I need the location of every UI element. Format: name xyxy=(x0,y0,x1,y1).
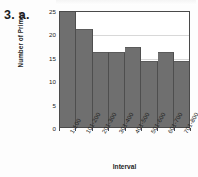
y-tick-label: 0 xyxy=(53,125,56,132)
y-axis-tick-labels: 0510152025 xyxy=(44,9,56,130)
scan-artifact xyxy=(56,0,196,5)
figure: 3. a. Number of Primes 0510152025 1-1001… xyxy=(0,0,198,177)
y-tick-label: 15 xyxy=(49,54,56,61)
y-axis-label: Number of Primes xyxy=(17,0,24,82)
y-tick-label: 25 xyxy=(49,8,56,15)
bar xyxy=(60,11,76,127)
plot-area xyxy=(59,11,190,128)
bar xyxy=(76,29,92,127)
bar-series xyxy=(60,12,189,127)
y-tick-label: 10 xyxy=(49,78,56,85)
y-tick-label: 5 xyxy=(53,101,56,108)
y-tick-label: 20 xyxy=(49,31,56,38)
x-axis-label: Interval xyxy=(59,163,190,170)
x-axis-tick-labels: 1-100101-200201-300301-400401-500501-600… xyxy=(59,131,190,159)
